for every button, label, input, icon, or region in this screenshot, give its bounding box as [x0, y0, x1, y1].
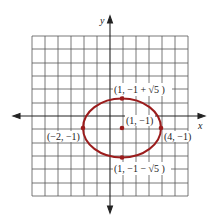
left-vertex-label: (−2, −1): [47, 131, 80, 143]
top-covertex-point: [120, 96, 125, 101]
y-axis-down-arrow-icon: [108, 206, 113, 213]
axes: [13, 16, 205, 213]
bottom-covertex-label: (1, −1 − √5 ): [114, 163, 165, 175]
left-vertex-point: [81, 126, 86, 131]
points: [81, 96, 164, 160]
center-point: [120, 126, 125, 131]
top-covertex-label: (1, −1 + √5 ): [114, 84, 165, 96]
bottom-covertex-point: [120, 155, 125, 160]
x-axis-left-arrow-icon: [13, 114, 20, 119]
right-vertex-label: (4, −1): [164, 131, 191, 143]
y-axis-label: y: [99, 15, 105, 26]
x-axis-label: x: [197, 120, 203, 131]
x-axis-right-arrow-icon: [198, 114, 205, 119]
y-axis-up-arrow-icon: [108, 16, 113, 23]
ellipse-diagram: y x (1, −1 + √5 ) (1, −1) (−2, −1) (4, −…: [0, 0, 214, 221]
center-label: (1, −1): [126, 115, 153, 127]
right-vertex-point: [159, 126, 164, 131]
